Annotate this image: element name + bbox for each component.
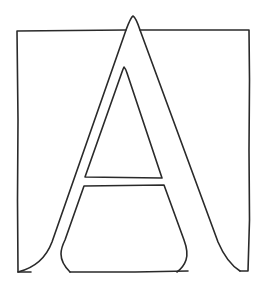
letter-a-lower-opening [61,185,187,272]
square-frame [17,30,250,272]
letter-a-outer-contour [18,16,240,272]
drawing-svg [0,0,267,285]
letter-a-drawing [0,0,267,285]
letter-a-counter [85,67,162,178]
